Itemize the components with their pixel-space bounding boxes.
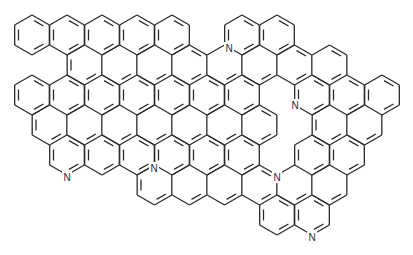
- ring-bonds: [15, 15, 400, 235]
- nitrogen-atom-label: N: [225, 43, 232, 54]
- nitrogen-atom-label: N: [63, 172, 70, 183]
- nitrogen-atom-label: N: [273, 172, 280, 183]
- heteroatom-labels: NNNNNN: [62, 42, 317, 243]
- nitrogen-atom-label: N: [308, 232, 315, 243]
- nitrogen-atom-label: N: [291, 100, 298, 111]
- nitrogen-atom-label: N: [150, 163, 157, 174]
- molecule-structure-diagram: NNNNNN: [0, 0, 413, 255]
